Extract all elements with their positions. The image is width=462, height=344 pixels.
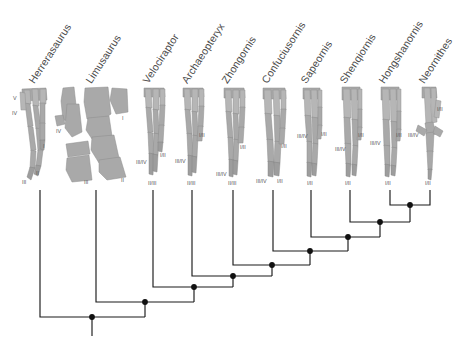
digit-label: IV <box>12 110 17 116</box>
digit-label: I/II <box>385 180 391 186</box>
tree-node <box>191 284 197 290</box>
digit-label: I/II <box>321 131 327 137</box>
digit-label: IV <box>56 128 61 134</box>
tree-node <box>377 219 383 225</box>
digit-label: I <box>43 143 44 149</box>
tree-node <box>269 262 275 268</box>
digit-label: III/IV <box>216 171 226 177</box>
digit-label: II/III <box>148 180 156 186</box>
tree-node <box>89 314 95 320</box>
digit-label: III/IV <box>256 178 266 184</box>
digit-label: II/III <box>228 180 236 186</box>
tree-node <box>142 299 148 305</box>
digit-label: I/II <box>240 144 246 150</box>
digit-label: I/II <box>437 106 443 112</box>
digit-label: III/IV <box>136 159 146 165</box>
digit-label: II/III <box>187 180 195 186</box>
digit-label: V <box>13 95 17 101</box>
digit-label: I/II <box>277 178 283 184</box>
digit-label: I/II <box>396 132 402 138</box>
digit-label: III/IV <box>408 132 418 138</box>
digit-label: III <box>84 179 88 185</box>
tree-node <box>407 202 413 208</box>
tree-node <box>307 248 313 254</box>
digit-label: II <box>121 177 124 183</box>
tree-node <box>345 234 351 240</box>
digit-label: I/II <box>425 180 431 186</box>
digit-label: I/II <box>160 152 166 158</box>
digit-label: I/II <box>281 143 287 149</box>
digit-label: I/II <box>307 180 313 186</box>
tree-branches <box>40 190 430 336</box>
digit-label: I <box>122 115 123 121</box>
digit-label: I/II <box>358 132 364 138</box>
digit-label: II <box>36 170 39 176</box>
digit-label: III/IV <box>297 133 307 139</box>
cladogram-figure: Herrerasaurus Limusaurus Velociraptor Ar… <box>0 0 462 344</box>
digit-label: III/IV <box>370 140 380 146</box>
digit-label: III/IV <box>175 158 185 164</box>
digit-label: I/II <box>345 180 351 186</box>
tree-node <box>230 273 236 279</box>
digit-label: III/IV <box>335 146 345 152</box>
digit-label: I/II <box>199 132 205 138</box>
digit-label: III <box>22 179 26 185</box>
